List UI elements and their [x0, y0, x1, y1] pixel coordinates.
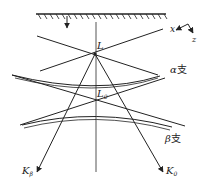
- label-beta-cjk: 支: [171, 133, 181, 144]
- label-K-beta-sub: β: [28, 170, 33, 178]
- line-through-L0-descending: [12, 75, 185, 126]
- ray-K-beta: [37, 54, 95, 172]
- crystal-surface: [36, 14, 167, 19]
- ray-K-0: [95, 54, 163, 172]
- surface-hatch-mark: [122, 14, 125, 19]
- label-x-axis: x: [170, 24, 175, 34]
- surface-hatch-mark: [80, 14, 83, 19]
- surface-hatch-mark: [86, 14, 89, 19]
- alpha-branch-curve-lower: [15, 78, 158, 88]
- surface-hatch-mark: [92, 14, 95, 19]
- label-L0-sub: 0: [104, 93, 108, 100]
- surface-hatch-mark: [110, 14, 113, 19]
- point-L: [93, 52, 96, 55]
- surface-hatch-mark: [158, 14, 161, 19]
- label-L0: L0: [96, 88, 108, 100]
- surface-hatch-mark: [50, 14, 53, 19]
- label-z-axis: z: [191, 35, 197, 44]
- label-beta-branch: β支: [164, 133, 181, 144]
- label-K0-sub: 0: [173, 170, 177, 177]
- surface-hatch-mark: [38, 14, 41, 19]
- surface-hatch-mark: [74, 14, 77, 19]
- surface-hatch-mark: [56, 14, 59, 19]
- surface-hatch-mark: [116, 14, 119, 19]
- line-through-L0-ascending: [20, 78, 165, 125]
- alpha-branch-curve-upper: [12, 75, 160, 86]
- label-alpha-cjk: 支: [177, 64, 187, 75]
- label-K-beta: Kβ: [21, 165, 33, 178]
- label-K0: K0: [165, 165, 177, 177]
- surface-hatch-mark: [98, 14, 101, 19]
- axis-indicator: [176, 24, 193, 33]
- label-alpha-branch: α支: [170, 64, 187, 75]
- surface-hatch-mark: [164, 14, 167, 19]
- surface-hatch-mark: [62, 14, 65, 19]
- surface-hatch-mark: [44, 14, 47, 19]
- surface-hatch-mark: [104, 14, 107, 19]
- surface-hatch-mark: [68, 14, 71, 19]
- surface-hatch-mark: [140, 14, 143, 19]
- surface-hatch-mark: [128, 14, 131, 19]
- surface-hatch-mark: [152, 14, 155, 19]
- beta-branch-curve-lower: [24, 119, 170, 130]
- diffraction-diagram: L L0 x z α支 β支 Kβ K0: [0, 0, 204, 185]
- label-L: L: [96, 40, 104, 51]
- surface-hatch-mark: [134, 14, 137, 19]
- surface-hatch-mark: [146, 14, 149, 19]
